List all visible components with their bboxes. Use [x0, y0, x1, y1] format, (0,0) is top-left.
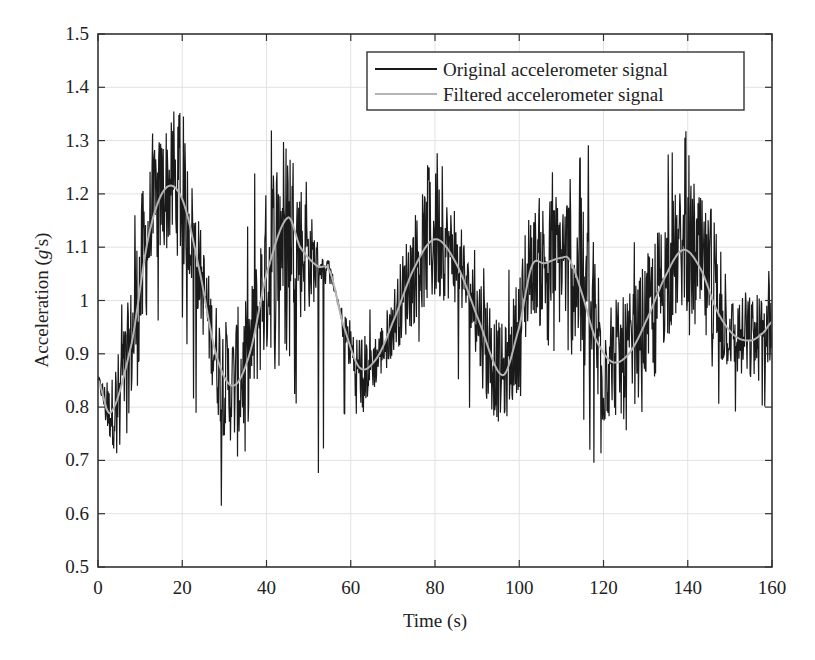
- x-tick-label: 160: [758, 577, 787, 598]
- x-tick-label: 0: [93, 577, 103, 598]
- y-tick-label: 0.5: [65, 556, 89, 577]
- x-tick-label: 20: [173, 577, 192, 598]
- y-tick-label: 1.1: [65, 236, 89, 257]
- y-tick-label: 1: [80, 290, 90, 311]
- y-tick-label: 1.5: [65, 23, 89, 44]
- legend-filtered-label: Filtered accelerometer signal: [443, 84, 664, 105]
- y-tick-label: 1.4: [65, 76, 89, 97]
- y-tick-label: 0.9: [65, 343, 89, 364]
- y-tick-label: 0.6: [65, 503, 89, 524]
- x-tick-label: 80: [426, 577, 445, 598]
- legend: Original accelerometer signal Filtered a…: [367, 52, 744, 110]
- y-tick-label: 0.7: [65, 449, 89, 470]
- x-tick-label: 100: [505, 577, 534, 598]
- x-tick-label: 40: [257, 577, 276, 598]
- y-tick-label: 0.8: [65, 396, 89, 417]
- x-tick-label: 60: [341, 577, 360, 598]
- y-tick-label: 1.2: [65, 183, 89, 204]
- acceleration-chart: 020406080100120140160 0.50.60.70.80.911.…: [0, 0, 815, 660]
- y-tick-label: 1.3: [65, 130, 89, 151]
- x-tick-label: 120: [589, 577, 618, 598]
- y-axis-title: Acceleration (g's): [31, 233, 53, 368]
- x-axis-title: Time (s): [403, 610, 467, 632]
- legend-original-label: Original accelerometer signal: [443, 59, 668, 80]
- x-tick-label: 140: [674, 577, 703, 598]
